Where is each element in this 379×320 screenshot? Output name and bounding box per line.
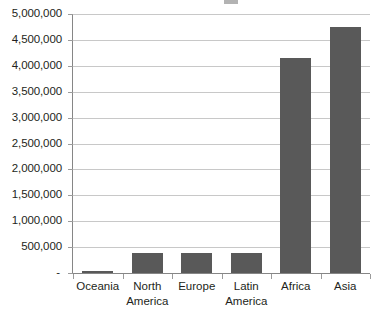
y-tick-label: 500,000 <box>0 241 68 253</box>
x-tick-mark <box>172 274 173 279</box>
cropped-title-sliver <box>224 0 238 4</box>
y-tick-label: 2,500,000 <box>0 138 68 150</box>
x-axis-label-line: Asia <box>321 279 371 294</box>
y-tick-label: 2,000,000 <box>0 163 68 175</box>
y-tick-mark <box>68 144 73 145</box>
y-tick-mark <box>68 14 73 15</box>
y-tick-mark <box>68 195 73 196</box>
x-tick-mark <box>73 274 74 279</box>
x-axis-label-latin-america: LatinAmerica <box>222 279 272 308</box>
x-axis-label-line: Oceania <box>73 279 123 294</box>
y-tick-label: 1,000,000 <box>0 215 68 227</box>
x-tick-mark <box>271 274 272 279</box>
y-tick-label: 4,500,000 <box>0 34 68 46</box>
x-axis-label-africa: Africa <box>271 279 321 294</box>
bar-north-america[interactable] <box>132 253 163 273</box>
x-tick-mark <box>123 274 124 279</box>
y-tick-label: - <box>0 267 68 279</box>
x-axis-label-europe: Europe <box>172 279 222 294</box>
x-axis-label-line: Latin <box>222 279 272 294</box>
y-tick-label: 3,000,000 <box>0 112 68 124</box>
x-axis-label-line: Europe <box>172 279 222 294</box>
x-axis-label-north-america: NorthAmerica <box>123 279 173 308</box>
y-tick-mark <box>68 66 73 67</box>
y-tick-label: 1,500,000 <box>0 189 68 201</box>
x-tick-mark <box>321 274 322 279</box>
y-tick-mark <box>68 169 73 170</box>
x-axis-label-line: Africa <box>271 279 321 294</box>
bar-chart: -500,0001,000,0001,500,0002,000,0002,500… <box>0 0 379 320</box>
y-axis-tick-labels: -500,0001,000,0001,500,0002,000,0002,500… <box>0 0 68 320</box>
y-tick-mark <box>68 118 73 119</box>
x-axis-category-labels: OceaniaNorthAmericaEuropeLatinAmericaAfr… <box>73 279 370 320</box>
y-tick-mark <box>68 247 73 248</box>
x-axis-label-line: North <box>123 279 173 294</box>
x-axis-label-line: America <box>222 294 272 309</box>
bars-layer <box>73 14 370 273</box>
bar-europe[interactable] <box>181 253 212 273</box>
y-tick-mark <box>68 40 73 41</box>
bar-asia[interactable] <box>330 27 361 273</box>
x-axis-label-line: America <box>123 294 173 309</box>
bar-latin-america[interactable] <box>231 253 262 273</box>
y-tick-mark <box>68 92 73 93</box>
x-axis-label-asia: Asia <box>321 279 371 294</box>
y-tick-label: 5,000,000 <box>0 8 68 20</box>
bar-africa[interactable] <box>280 58 311 273</box>
y-tick-label: 3,500,000 <box>0 86 68 98</box>
y-tick-label: 4,000,000 <box>0 60 68 72</box>
y-tick-mark <box>68 221 73 222</box>
x-axis-label-oceania: Oceania <box>73 279 123 294</box>
bar-oceania[interactable] <box>82 271 113 273</box>
x-tick-mark <box>370 274 371 279</box>
x-tick-mark <box>222 274 223 279</box>
